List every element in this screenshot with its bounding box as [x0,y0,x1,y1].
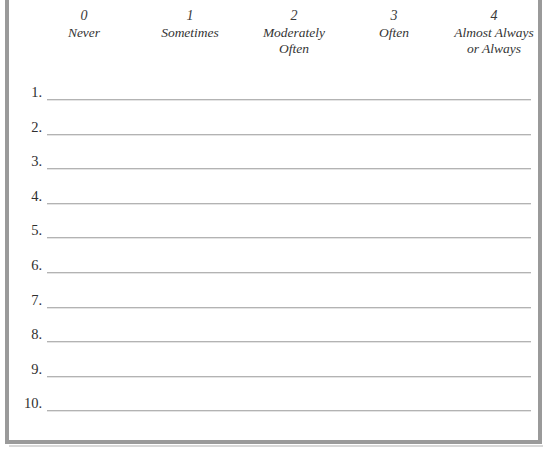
rating-scale-header: 0 Never 1 Sometimes 2 Moderately Often 3… [12,8,538,70]
item-row: 1. [12,84,538,119]
item-row: 10. [12,395,538,430]
item-number: 9. [12,361,42,378]
item-number: 3. [12,153,42,170]
item-number: 6. [12,257,42,274]
item-number: 1. [12,84,42,101]
item-write-in-line[interactable] [47,99,531,100]
item-row: 7. [12,292,538,327]
page-frame-shadow [9,445,543,447]
scale-column-4: 4 Almost Always or Always [424,8,558,57]
scale-label-4: Almost Always or Always [424,25,558,57]
item-row: 9. [12,361,538,396]
questionnaire-item-list: 1. 2. 3. 4. 5. 6. 7. 8. [12,84,538,430]
item-write-in-line[interactable] [47,341,531,342]
item-row: 8. [12,326,538,361]
item-number: 5. [12,222,42,239]
item-write-in-line[interactable] [47,134,531,135]
item-row: 6. [12,257,538,292]
item-write-in-line[interactable] [47,168,531,169]
item-write-in-line[interactable] [47,376,531,377]
item-number: 4. [12,188,42,205]
scale-value-0: 0 [24,8,144,24]
form-sheet: 0 Never 1 Sometimes 2 Moderately Often 3… [0,0,558,459]
item-row: 2. [12,119,538,154]
scale-column-0: 0 Never [24,8,144,41]
item-number: 8. [12,326,42,343]
scale-value-4: 4 [424,8,558,24]
item-row: 5. [12,222,538,257]
item-number: 10. [12,395,42,412]
item-write-in-line[interactable] [47,203,531,204]
item-row: 4. [12,188,538,223]
item-number: 2. [12,119,42,136]
item-row: 3. [12,153,538,188]
scale-label-0: Never [24,25,144,41]
item-write-in-line[interactable] [47,307,531,308]
item-write-in-line[interactable] [47,237,531,238]
item-write-in-line[interactable] [47,410,531,411]
item-write-in-line[interactable] [47,272,531,273]
item-number: 7. [12,292,42,309]
